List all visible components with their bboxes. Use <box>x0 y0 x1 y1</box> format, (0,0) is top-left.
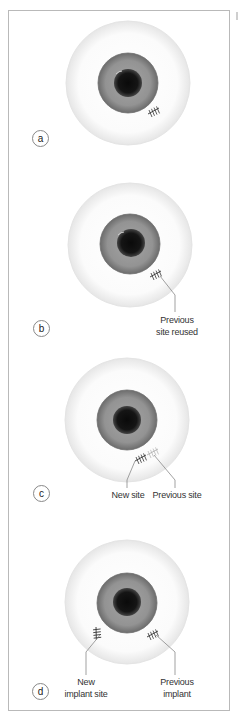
panel-d-badge: d <box>32 683 49 700</box>
label-new-implant-site: New implant site <box>55 676 117 700</box>
panel-a-eye <box>66 21 190 145</box>
label-new-site: New site <box>105 489 151 501</box>
label-line: implant site <box>55 688 117 700</box>
label-line: New <box>55 676 117 688</box>
panel-b-badge: b <box>33 320 50 337</box>
label-line: Previous <box>145 314 209 326</box>
label-line: New site <box>105 489 151 501</box>
panel-a-badge: a <box>32 130 49 147</box>
label-previous-site: Previous site <box>148 489 206 501</box>
panel-d-eye <box>65 540 189 675</box>
label-previous-implant: Previous implant <box>148 676 206 700</box>
panel-c-eye <box>65 358 189 488</box>
eye-diagram <box>0 0 239 716</box>
label-line: site reused <box>145 326 209 338</box>
label-line: implant <box>148 688 206 700</box>
label-previous-site-reused: Previous site reused <box>145 314 209 338</box>
panel-b-eye <box>68 183 192 312</box>
panel-c-badge: c <box>33 485 50 502</box>
label-line: Previous <box>148 676 206 688</box>
label-line: Previous site <box>148 489 206 501</box>
